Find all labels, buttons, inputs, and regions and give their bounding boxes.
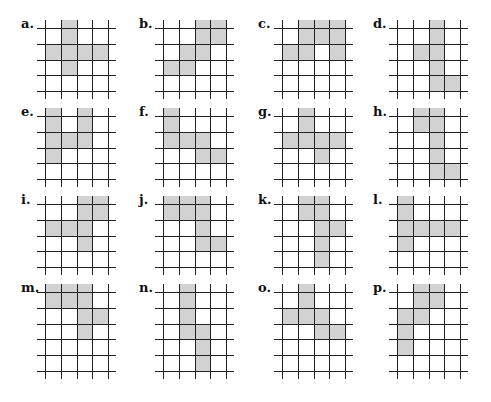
shaded-square [429,75,445,91]
shaded-square [179,44,195,60]
grid-line-vertical [61,108,62,187]
shaded-square [298,108,314,132]
puzzle-label: e. [21,105,34,118]
grid-line-vertical [77,20,78,99]
grid-line-vertical [429,196,430,275]
shaded-square [77,284,93,308]
shaded-square [179,132,195,148]
shaded-square [195,132,211,148]
shaded-square [195,324,211,340]
puzzle-label: k. [258,193,272,206]
shaded-square [195,196,211,220]
grid-line-vertical [329,108,330,187]
shaded-square [61,132,77,148]
puzzle-label: l. [373,193,382,206]
shaded-square [329,20,345,44]
shaded-square [179,308,195,324]
grid-line-vertical [108,108,109,187]
shaded-square [314,148,330,164]
shaded-square [298,284,314,308]
shaded-square [282,308,298,324]
puzzle-label: h. [373,105,387,118]
grid-line-vertical [345,284,346,379]
shaded-square [45,132,61,148]
grid-line-vertical [226,108,227,187]
shaded-square [179,60,195,76]
grid-line-vertical [429,20,430,99]
grid-line-vertical [397,284,398,379]
shaded-square [61,284,77,308]
grid-line-vertical [226,196,227,275]
grid-line-vertical [77,284,78,379]
shaded-square [298,132,314,148]
grid-line-vertical [45,196,46,275]
shaded-square [61,20,77,44]
grid-line-vertical [314,20,315,99]
shaded-square [413,108,429,132]
grid-line-vertical [195,108,196,187]
puzzle-label: n. [139,281,153,294]
shaded-square [282,44,298,60]
grid-line-vertical [444,284,445,379]
shaded-square [61,60,77,76]
grid-line-vertical [92,108,93,187]
grid-line-vertical [413,108,414,187]
grid-line-vertical [108,284,109,379]
shaded-square [77,108,93,132]
shaded-square [397,196,413,220]
shaded-square [179,196,195,220]
shaded-square [163,196,179,220]
grid-line-vertical [444,108,445,187]
shaded-square [45,108,61,132]
grid-line-vertical [444,196,445,275]
grid-line-vertical [163,284,164,379]
grid-line-vertical [61,284,62,379]
grid-line-vertical [179,108,180,187]
puzzle-label: i. [21,193,30,206]
puzzle-label: a. [21,17,34,30]
shaded-square [413,44,429,60]
grid-line-vertical [282,108,283,187]
shaded-square [61,220,77,236]
puzzle-label: g. [258,105,272,118]
shaded-square [77,220,93,236]
grid-line-vertical [77,196,78,275]
shaded-square [429,148,445,164]
shaded-square [210,148,226,164]
grid-line-vertical [298,20,299,99]
grid-line-vertical [460,196,461,275]
grid-line-vertical [460,20,461,99]
grid-line-vertical [345,196,346,275]
shaded-square [195,148,211,164]
shaded-square [77,196,93,220]
shaded-square [397,308,413,324]
puzzle-label: b. [139,17,153,30]
grid-line-vertical [282,284,283,379]
grid-line-vertical [45,284,46,379]
grid-line-vertical [195,196,196,275]
grid-line-vertical [92,20,93,99]
grid-line-vertical [444,20,445,99]
grid-line-vertical [77,108,78,187]
grid-line-vertical [329,284,330,379]
shaded-square [429,284,445,308]
grid-line-vertical [329,196,330,275]
shaded-square [429,132,445,148]
shaded-square [195,44,211,60]
grid-line-vertical [413,196,414,275]
shaded-square [45,148,61,164]
grid-line-vertical [345,108,346,187]
shaded-square [61,44,77,60]
shaded-square [314,308,330,324]
grid-line-vertical [460,108,461,187]
grid-line-vertical [413,20,414,99]
shaded-square [413,220,429,236]
grid-line-vertical [179,284,180,379]
shaded-square [314,196,330,220]
shaded-square [92,308,108,324]
grid-line-vertical [314,196,315,275]
shaded-square [429,220,445,236]
shaded-square [179,324,195,340]
puzzle-label: c. [258,17,270,30]
shaded-square [179,284,195,308]
